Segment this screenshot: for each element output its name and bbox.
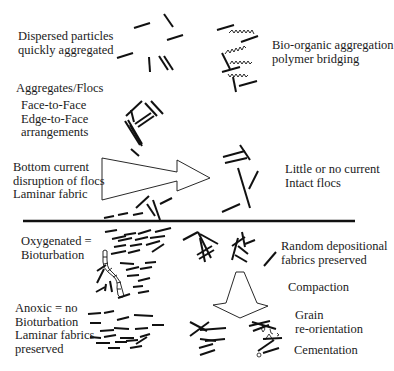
laminar-fabric-anoxic [88, 311, 164, 348]
label-bio-organic: Bio-organic aggregation polymer bridging [272, 39, 394, 66]
label-little-current: Little or no current Intact flocs [285, 163, 380, 190]
label-oxygenated: Oxygenated = Bioturbation [21, 235, 92, 262]
label-line: Bioturbation [21, 249, 92, 263]
label-line: Bioturbation [15, 316, 94, 330]
burrow [103, 250, 124, 297]
label-line: re-orientation [295, 323, 363, 337]
label-line: Bottom current [13, 161, 105, 175]
label-line: Aggregates/Flocs [16, 82, 103, 96]
label-line: Cementation [294, 344, 358, 358]
disrupted-flocs [104, 196, 172, 220]
label-anoxic: Anoxic = no Bioturbation Laminar fabrics… [15, 302, 94, 356]
compaction-arrow [213, 272, 268, 318]
label-line: fabrics preserved [281, 254, 388, 268]
label-dispersed-particles: Dispersed particles quickly aggregated [18, 30, 113, 57]
label-line: Laminar fabric [13, 188, 105, 202]
random-fabric [183, 232, 276, 266]
label-line: Edge-to-Face [21, 113, 88, 127]
cemented-grains [249, 321, 282, 357]
label-line: Compaction [288, 281, 349, 295]
label-compaction: Compaction [288, 281, 349, 295]
label-line: arrangements [21, 126, 88, 140]
current-arrow [102, 158, 210, 200]
polymer-bridged-flocs [217, 25, 258, 92]
label-line: Dispersed particles [18, 30, 113, 44]
intact-flocs [222, 145, 258, 212]
label-line: Bio-organic aggregation [272, 39, 394, 53]
label-line: Intact flocs [285, 177, 380, 191]
label-face-edge: Face-to-Face Edge-to-Face arrangements [21, 99, 88, 140]
label-line: Grain [295, 309, 363, 323]
label-random-depositional: Random depositional fabrics preserved [281, 240, 388, 267]
label-line: Random depositional [281, 240, 388, 254]
label-line: Little or no current [285, 163, 380, 177]
label-line: disruption of flocs [13, 175, 105, 189]
label-cementation: Cementation [294, 344, 358, 358]
label-grain-reorientation: Grain re-orientation [295, 309, 363, 336]
label-line: quickly aggregated [18, 44, 113, 58]
label-aggregates: Aggregates/Flocs [16, 82, 103, 96]
label-line: polymer bridging [272, 53, 394, 67]
compacted-grains [190, 322, 226, 355]
label-bottom-current: Bottom current disruption of flocs Lamin… [13, 161, 105, 202]
label-line: preserved [15, 343, 94, 357]
dispersed-particles [117, 14, 183, 72]
label-line: Anoxic = no [15, 302, 94, 316]
label-line: Face-to-Face [21, 99, 88, 113]
floc-aggregates [125, 101, 163, 156]
label-line: Oxygenated = [21, 235, 92, 249]
label-line: Laminar fabrics [15, 329, 94, 343]
